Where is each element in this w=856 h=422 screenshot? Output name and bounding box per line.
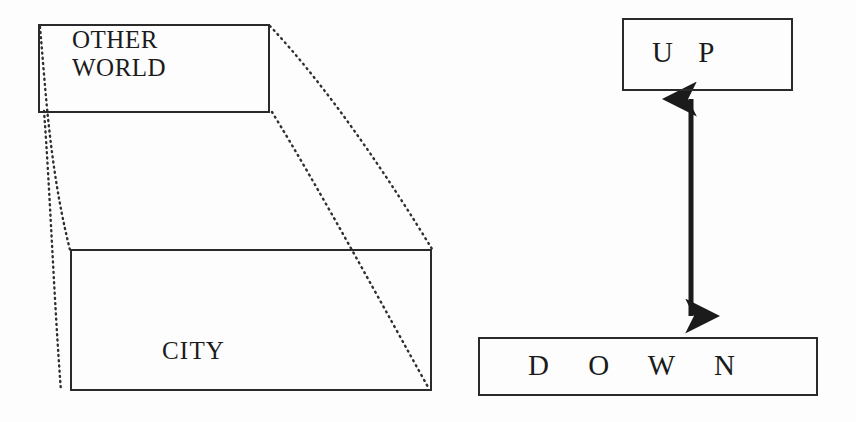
node-box-city[interactable]: [70, 249, 432, 391]
node-label-city: CITY: [162, 337, 225, 365]
node-label-down: D O W N: [528, 349, 751, 381]
diagram-canvas: OTHER WORLD CITY U P D O W N: [0, 0, 856, 422]
node-label-up: U P: [652, 36, 723, 68]
connector-other-world-to-city-top-right: [270, 26, 432, 249]
node-label-other-world: OTHER WORLD: [72, 26, 166, 82]
